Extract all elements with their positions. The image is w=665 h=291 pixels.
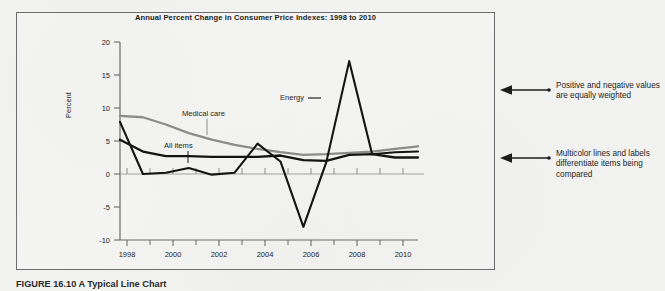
- y-axis-title: Percent: [64, 58, 73, 118]
- y-tick-label-5: 5: [84, 137, 110, 146]
- series-label-energy: Energy: [280, 93, 304, 102]
- y-tick-label-10: 10: [84, 104, 110, 113]
- y-axis-ticks: [114, 42, 120, 240]
- x-axis-major-ticks: [127, 240, 403, 246]
- x-tick-label-1998: 1998: [110, 250, 144, 259]
- x-tick-label-2000: 2000: [156, 250, 190, 259]
- callout-arrow-icon-2: [500, 152, 552, 164]
- y-tick-label-neg10: -10: [84, 236, 110, 245]
- callout-arrow-icon-1: [500, 84, 552, 96]
- x-tick-label-2010: 2010: [386, 250, 420, 259]
- y-tick-label-15: 15: [84, 71, 110, 80]
- callout-text-multicolor-lines: Multicolor lines and labels differentiat…: [556, 149, 665, 180]
- callout-text-positive-negative: Positive and negative values are equally…: [556, 81, 665, 102]
- chart-plot-area: 20 15 10 5 0 -5 -10 1998 2000 2002 2004 …: [16, 12, 495, 270]
- series-label-medical-care: Medical care: [182, 109, 225, 118]
- x-tick-label-2004: 2004: [248, 250, 282, 259]
- y-tick-label-20: 20: [84, 38, 110, 47]
- y-tick-label-0: 0: [84, 170, 110, 179]
- figure-caption: FIGURE 16.10 A Typical Line Chart: [16, 279, 576, 289]
- x-tick-label-2008: 2008: [340, 250, 374, 259]
- y-tick-label-neg5: -5: [84, 203, 110, 212]
- x-tick-label-2002: 2002: [202, 250, 236, 259]
- series-label-all-items: All items: [164, 141, 193, 150]
- x-tick-label-2006: 2006: [294, 250, 328, 259]
